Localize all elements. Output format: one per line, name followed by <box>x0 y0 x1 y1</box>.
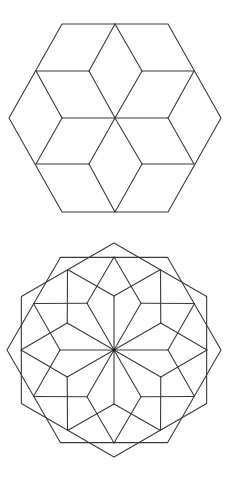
rosette-spoke <box>114 350 161 377</box>
rhombus-edge <box>89 164 115 212</box>
rhombus-edge <box>115 118 142 164</box>
rosette-rhombus-edge <box>161 323 207 350</box>
rosette-rhombus-edge <box>68 404 115 431</box>
rhombus-edge <box>89 24 115 71</box>
geometric-diagram <box>0 0 236 484</box>
rosette-rhombus-edge <box>33 350 60 397</box>
rhombus-edge <box>168 118 194 164</box>
rosette-rhombus-edge <box>21 350 67 377</box>
rhombus-edge <box>115 24 142 71</box>
rhombus-edge <box>115 164 142 212</box>
rosette-spoke <box>67 350 114 377</box>
rosette-rhombus-edge <box>168 304 195 351</box>
rosette-rhombus-edge <box>87 397 114 443</box>
rosette-rhombus-edge <box>114 397 141 443</box>
rosette-spoke <box>114 303 141 350</box>
rosette-spoke <box>114 350 141 397</box>
center-point <box>112 348 115 351</box>
rhombus-edge <box>89 71 115 118</box>
rosette-spoke <box>87 303 114 350</box>
hexagon-cube-star-figure <box>9 24 221 212</box>
rosette-rhombus-edge <box>168 350 195 397</box>
rosette-rhombus-edge <box>114 269 161 296</box>
rhombus-edge <box>115 71 142 118</box>
rosette-rhombus-edge <box>114 257 141 303</box>
rosette-rhombus-edge <box>161 350 207 377</box>
rosette-rhombus-edge <box>68 269 115 296</box>
rhombus-edge <box>168 71 194 118</box>
rhombus-edge <box>89 118 115 164</box>
rosette-rhombus-edge <box>114 404 161 431</box>
rhombus-edge <box>36 118 62 164</box>
rosette-rhombus-edge <box>33 304 60 351</box>
rosette-spoke <box>87 350 114 397</box>
rosette-spoke <box>67 323 114 350</box>
rhombus-edge <box>36 71 62 118</box>
rosette-rhombus-edge <box>87 257 114 303</box>
dodecagonal-rosette-figure <box>7 243 221 457</box>
rosette-rhombus-edge <box>21 323 67 350</box>
rosette-spoke <box>114 323 161 350</box>
